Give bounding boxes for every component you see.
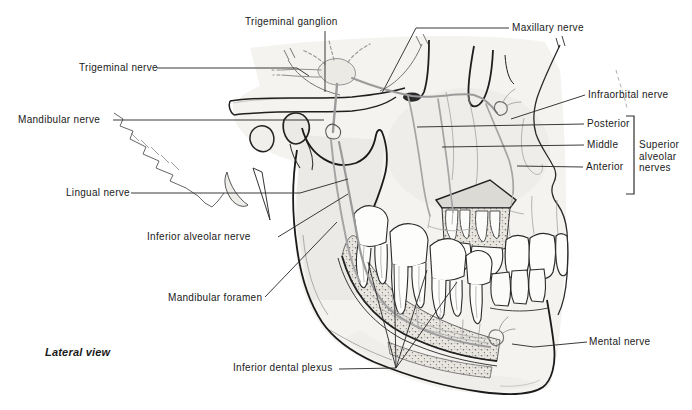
- figure-canvas: Trigeminal ganglion Maxillary nerve Trig…: [0, 0, 692, 410]
- label-maxillary-nerve: Maxillary nerve: [512, 22, 584, 34]
- label-inferior-alveolar-nerve: Inferior alveolar nerve: [147, 231, 251, 243]
- label-trigeminal-nerve: Trigeminal nerve: [79, 62, 158, 74]
- label-middle: Middle: [587, 139, 618, 151]
- label-inferior-dental-plexus: Inferior dental plexus: [233, 362, 332, 374]
- label-mental-nerve: Mental nerve: [589, 336, 650, 348]
- label-lingual-nerve: Lingual nerve: [66, 187, 130, 199]
- label-mandibular-foramen: Mandibular foramen: [168, 292, 262, 304]
- label-trigeminal-ganglion: Trigeminal ganglion: [245, 16, 338, 28]
- label-mandibular-nerve: Mandibular nerve: [18, 114, 100, 126]
- label-superior-alveolar-nerves: Superior alveolar nerves: [639, 139, 687, 174]
- label-anterior: Anterior: [586, 161, 623, 173]
- label-posterior: Posterior: [587, 118, 630, 130]
- label-infraorbital-nerve: Infraorbital nerve: [588, 89, 668, 101]
- view-caption: Lateral view: [45, 346, 110, 358]
